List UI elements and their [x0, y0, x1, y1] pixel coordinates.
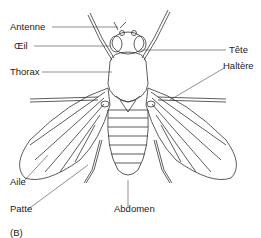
label-tete: Tête [229, 45, 248, 55]
panel-label: (B) [10, 228, 23, 238]
label-aile: Aile [10, 177, 26, 187]
label-haltere: Haltère [223, 61, 254, 71]
label-patte: Patte [10, 204, 32, 214]
label-antenne: Antenne [10, 22, 45, 32]
label-thorax: Thorax [10, 67, 40, 77]
label-abdomen: Abdomen [114, 204, 155, 214]
label-oeil: Œil [14, 41, 28, 51]
